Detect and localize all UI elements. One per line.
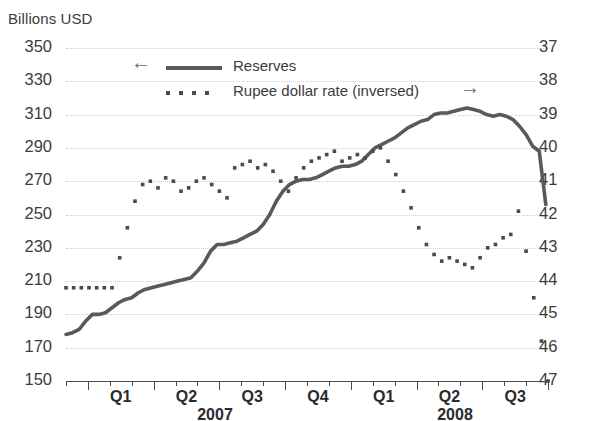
- rupee-rate-marker: [225, 196, 229, 200]
- x-axis-minor-tick: [504, 381, 505, 386]
- x-axis-major-tick: [285, 381, 286, 390]
- y-axis-right-tick-label: 43: [539, 237, 589, 256]
- rupee-rate-marker: [110, 286, 114, 290]
- rupee-rate-marker: [202, 176, 206, 180]
- gridline: [66, 148, 548, 149]
- x-axis-quarter-label: Q1: [91, 388, 151, 406]
- rupee-rate-marker: [455, 259, 459, 263]
- rupee-rate-marker: [233, 166, 237, 170]
- rupee-rate-marker: [386, 159, 390, 163]
- rupee-rate-marker: [179, 189, 183, 193]
- right-arrow-icon: →: [460, 77, 480, 97]
- rupee-rate-marker: [448, 256, 452, 260]
- y-axis-left-tick-label: 190: [4, 303, 52, 322]
- x-axis-minor-tick: [263, 381, 264, 386]
- rupee-rate-marker: [287, 189, 291, 193]
- y-axis-left-tick-label: 150: [4, 370, 52, 389]
- rupee-rate-marker: [494, 243, 498, 247]
- y-axis-left-tick-label: 270: [4, 170, 52, 189]
- y-axis-right-tick-label: 39: [539, 104, 589, 123]
- rupee-rate-marker: [218, 189, 222, 193]
- rupee-rate-marker: [156, 186, 160, 190]
- y-axis-right-tick-label: 46: [539, 337, 589, 356]
- rupee-rate-marker: [187, 186, 191, 190]
- legend-swatch-reserves: [166, 66, 222, 70]
- rupee-rate-marker: [463, 263, 467, 267]
- y-axis-left-tick-label: 290: [4, 137, 52, 156]
- rupee-rate-marker: [294, 176, 298, 180]
- x-axis-major-tick: [154, 381, 155, 390]
- rupee-rate-marker: [532, 296, 536, 300]
- y-axis-title: Billions USD: [8, 10, 93, 27]
- x-axis-year-label: 2007: [175, 406, 255, 421]
- x-axis-minor-tick: [110, 381, 111, 386]
- y-axis-left-tick-label: 210: [4, 270, 52, 289]
- gridline: [66, 215, 548, 216]
- legend-label-reserves: Reserves: [233, 57, 296, 74]
- rupee-rate-marker: [409, 206, 413, 210]
- rupee-rate-marker: [271, 169, 275, 173]
- x-axis-minor-tick: [373, 381, 374, 386]
- rupee-rate-marker: [348, 156, 352, 160]
- rupee-rate-marker: [95, 286, 99, 290]
- rupee-rate-marker: [363, 156, 367, 160]
- y-axis-left-tick-label: 330: [4, 70, 52, 89]
- x-axis-quarter-label: Q1: [354, 388, 414, 406]
- x-axis-minor-tick: [329, 381, 330, 386]
- rupee-rate-marker: [425, 243, 429, 247]
- rupee-rate-marker: [164, 176, 168, 180]
- rupee-rate-marker: [133, 199, 137, 203]
- x-axis-minor-tick: [197, 381, 198, 386]
- rupee-rate-marker: [210, 183, 214, 187]
- rupee-rate-marker: [394, 173, 398, 177]
- y-axis-right-tick-label: 37: [539, 37, 589, 56]
- left-arrow-icon: ←: [131, 52, 151, 72]
- rupee-rate-marker: [264, 163, 268, 167]
- rupee-rate-marker: [524, 249, 528, 253]
- x-axis-major-tick: [482, 381, 483, 390]
- gridline: [66, 281, 548, 282]
- rupee-rate-marker: [126, 226, 130, 230]
- rupee-rate-marker: [72, 286, 76, 290]
- x-axis-minor-tick: [176, 381, 177, 386]
- rupee-rate-marker: [402, 189, 406, 193]
- rupee-rate-marker: [471, 266, 475, 270]
- rupee-rate-marker: [241, 163, 245, 167]
- x-axis-minor-tick: [66, 381, 67, 386]
- x-axis-minor-tick: [460, 381, 461, 386]
- gridline: [66, 248, 548, 249]
- x-axis-minor-tick: [307, 381, 308, 386]
- x-axis-quarter-label: Q3: [222, 388, 282, 406]
- rupee-rate-marker: [80, 286, 84, 290]
- x-axis-minor-tick: [438, 381, 439, 386]
- legend-swatch-rupee: [166, 91, 222, 95]
- y-axis-left-tick-label: 170: [4, 337, 52, 356]
- x-axis-major-tick: [88, 381, 89, 390]
- x-axis-year-label: 2008: [415, 406, 495, 421]
- y-axis-right-tick-label: 40: [539, 137, 589, 156]
- reserves-line: [66, 108, 546, 334]
- x-axis-quarter-label: Q2: [419, 388, 479, 406]
- rupee-rate-marker: [256, 166, 260, 170]
- rupee-rate-marker: [440, 259, 444, 263]
- y-axis-right-tick-label: 44: [539, 270, 589, 289]
- rupee-rate-marker: [340, 159, 344, 163]
- gridline: [66, 115, 548, 116]
- x-axis-major-tick: [548, 381, 549, 390]
- x-axis-minor-tick: [526, 381, 527, 386]
- rupee-rate-marker: [310, 159, 314, 163]
- x-axis-quarter-label: Q2: [157, 388, 217, 406]
- x-axis-major-tick: [219, 381, 220, 390]
- x-axis-major-tick: [351, 381, 352, 390]
- y-axis-left-tick-label: 250: [4, 204, 52, 223]
- y-axis-right-tick-label: 47: [539, 370, 589, 389]
- rupee-rate-marker: [103, 286, 107, 290]
- rupee-rate-marker: [417, 226, 421, 230]
- x-axis-minor-tick: [241, 381, 242, 386]
- y-axis-right-tick-label: 41: [539, 170, 589, 189]
- rupee-rate-marker: [371, 149, 375, 153]
- rupee-rate-marker: [317, 156, 321, 160]
- rupee-rate-marker: [248, 159, 252, 163]
- y-axis-left-tick-label: 310: [4, 104, 52, 123]
- x-axis-minor-tick: [132, 381, 133, 386]
